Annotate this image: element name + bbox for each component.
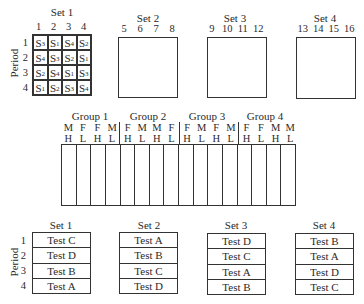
test-cell: Test D (208, 234, 265, 248)
latin-square-cell: S1 (48, 35, 63, 50)
test-cell: Test D (33, 247, 90, 262)
groups-columns-box (61, 144, 296, 206)
latin-square-cell: S1 (77, 50, 92, 65)
subject-index: 3 (42, 40, 46, 48)
group-column (178, 145, 193, 205)
column-label: 12 (251, 23, 267, 34)
group-1-title: Group 1 (61, 110, 119, 122)
column-label: 10 (220, 23, 236, 34)
subject-index: 4 (85, 85, 89, 93)
test-cell: Test B (296, 234, 353, 248)
group-column (134, 145, 149, 205)
bottom-set-4-title: Set 4 (295, 219, 353, 231)
set-3-box (207, 37, 267, 98)
subject-index: 1 (85, 55, 89, 63)
subject-index: 3 (85, 70, 89, 78)
bottom-set-2-title: Set 2 (120, 219, 178, 231)
group-column (222, 145, 237, 205)
set-4-column-labels: 13 14 15 16 (295, 23, 357, 34)
group-column (280, 145, 295, 205)
latin-square-cell: S4 (48, 65, 63, 80)
set-2-box (118, 37, 178, 98)
period-label: 4 (14, 278, 26, 293)
bottom-set-1-tests: Test C Test D Test B Test A (32, 232, 91, 294)
group-2-title: Group 2 (119, 110, 177, 122)
column-label: 15 (326, 23, 342, 34)
period-label: 2 (14, 248, 26, 263)
set-3-column-labels: 9 10 11 12 (204, 23, 266, 34)
bottom-set-3-title: Set 3 (207, 219, 265, 231)
column-label: 7 (148, 23, 164, 34)
test-cell: Test A (33, 278, 90, 293)
subject-index: 1 (56, 40, 60, 48)
group-column (266, 145, 281, 205)
bottom-set-4-tests: Test B Test A Test D Test C (295, 233, 354, 295)
period-row-labels-bottom: 1 2 3 4 (14, 233, 26, 293)
column-label: 2 (46, 21, 61, 32)
subject-index: 3 (56, 55, 60, 63)
subject-index: 4 (71, 40, 75, 48)
test-cell: Test A (296, 248, 353, 263)
group-column (237, 145, 252, 205)
group-4-title: Group 4 (236, 110, 294, 122)
latin-square-cell: S4 (62, 35, 77, 50)
subject-index: 1 (42, 85, 46, 93)
period-label: 1 (14, 35, 28, 50)
bottom-set-1-title: Set 1 (32, 219, 90, 231)
column-label: 1 (31, 21, 46, 32)
latin-square-cell: S3 (48, 50, 63, 65)
latin-square-cell: S1 (62, 65, 77, 80)
test-cell: Test A (120, 233, 177, 247)
latin-square-cell: S2 (77, 35, 92, 50)
test-cell: Test A (208, 264, 265, 279)
group-3-title: Group 3 (178, 110, 236, 122)
period-label: 3 (14, 65, 28, 80)
set-1-title: Set 1 (33, 6, 91, 18)
column-label: 6 (132, 23, 148, 34)
test-cell: Test C (33, 233, 90, 247)
column-label: 14 (311, 23, 327, 34)
period-row-labels-top: 1 2 3 4 (14, 35, 28, 95)
subject-index: 2 (56, 85, 60, 93)
test-cell: Test C (208, 248, 265, 263)
test-cell: Test B (208, 279, 265, 294)
test-cell: Test C (296, 279, 353, 294)
column-label: 13 (295, 23, 311, 34)
latin-square-cell: S2 (62, 50, 77, 65)
bottom-set-2-tests: Test A Test B Test C Test D (119, 232, 178, 294)
latin-square-cell: S4 (33, 50, 48, 65)
group-column (76, 145, 91, 205)
column-label: 8 (164, 23, 180, 34)
group-column (193, 145, 208, 205)
test-cell: Test C (120, 263, 177, 278)
column-label: 16 (342, 23, 358, 34)
period-label: 2 (14, 50, 28, 65)
subject-index: 2 (71, 55, 75, 63)
bottom-set-3-tests: Test D Test C Test A Test B (207, 233, 266, 295)
group-column (251, 145, 266, 205)
column-label: 11 (235, 23, 251, 34)
group-column (105, 145, 120, 205)
latin-square-cell: S3 (33, 35, 48, 50)
test-cell: Test B (33, 263, 90, 278)
group-column (120, 145, 135, 205)
test-cell: Test D (120, 278, 177, 293)
group-column (207, 145, 222, 205)
group-column (163, 145, 178, 205)
column-label: 5 (116, 23, 132, 34)
subject-index: 1 (71, 70, 75, 78)
test-cell: Test D (296, 264, 353, 279)
group-column (149, 145, 164, 205)
latin-square-cell: S3 (77, 65, 92, 80)
latin-square-cell: S2 (33, 65, 48, 80)
latin-square-cell: S2 (48, 80, 63, 95)
subject-index: 4 (42, 55, 46, 63)
group-column (90, 145, 105, 205)
set-1-column-labels: 1 2 3 4 (31, 21, 91, 32)
column-label: 3 (61, 21, 76, 32)
period-label: 4 (14, 80, 28, 95)
subject-index: 2 (42, 70, 46, 78)
period-label: 1 (14, 233, 26, 248)
set-1-latin-square: S3S1S4S2S4S3S2S1S2S4S1S3S1S2S3S4 (32, 34, 92, 96)
period-label: 3 (14, 263, 26, 278)
